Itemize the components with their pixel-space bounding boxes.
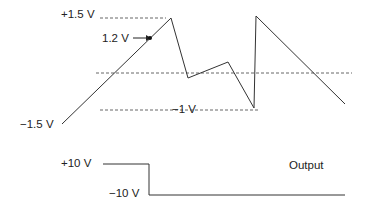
label-minus-1-5v: −1.5 V <box>20 119 54 131</box>
point-1-2v <box>148 36 152 40</box>
label-output: Output <box>289 160 324 172</box>
label-plus-10v: +10 V <box>61 158 91 170</box>
label-1-2v: 1.2 V <box>102 33 129 45</box>
label-plus-1-5v: +1.5 V <box>61 9 95 21</box>
label-minus-10v: −10 V <box>109 188 139 200</box>
label-minus-1v: −1 V <box>172 104 196 116</box>
